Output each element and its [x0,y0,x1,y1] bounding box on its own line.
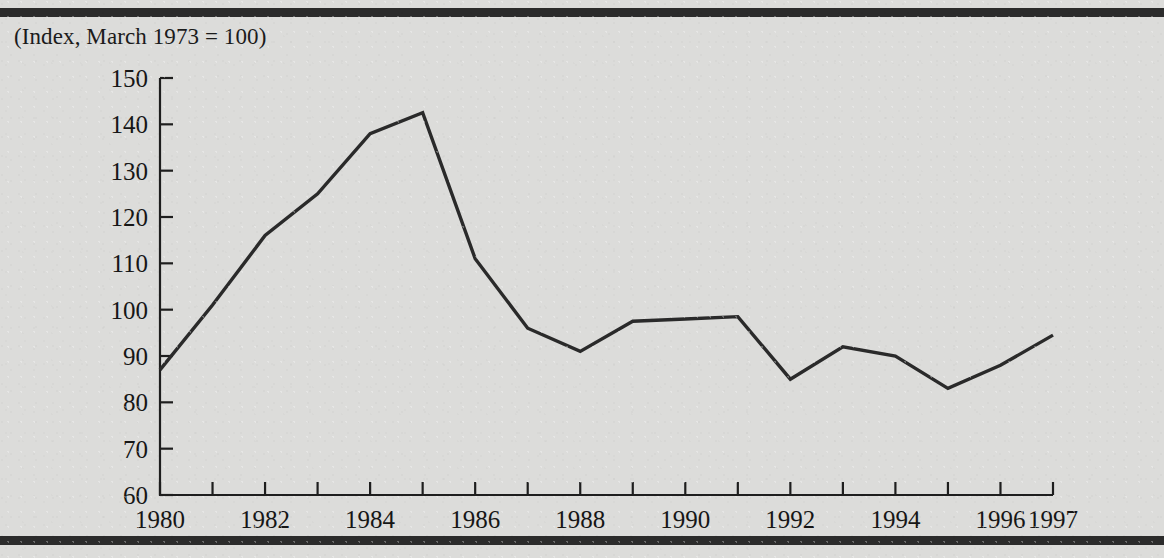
y-axis-label-group: 60708090100110120130140150 [111,65,149,509]
y-axis-tick-label: 140 [111,111,149,138]
x-axis-label-group: 1980198219841986198819901992199419961997 [135,506,1078,533]
y-axis-tick-label: 120 [111,204,149,231]
line-chart-plot: 60708090100110120130140150 1980198219841… [0,0,1164,558]
chart-title: (Index, March 1973 = 100) [14,24,266,50]
x-axis-tick-label: 1982 [240,506,290,533]
x-axis-tick-label: 1994 [870,506,921,533]
top-rule-divider [0,8,1164,17]
x-axis-tick-label: 1988 [555,506,605,533]
axis-frame [160,78,1053,495]
x-axis-tick-label: 1986 [450,506,500,533]
x-axis-tick-label: 1997 [1028,506,1078,533]
y-axis-tick-group [160,78,173,495]
y-axis-tick-label: 80 [123,389,148,416]
x-axis-tick-label: 1980 [135,506,185,533]
x-axis-tick-label: 1996 [975,506,1025,533]
y-axis-tick-label: 130 [111,158,149,185]
y-axis-tick-label: 60 [123,482,148,509]
y-axis-tick-label: 150 [111,65,149,92]
x-axis-tick-label: 1992 [765,506,815,533]
chart-page: (Index, March 1973 = 100) 60708090100110… [0,0,1164,558]
y-axis-tick-label: 70 [123,436,148,463]
x-axis-tick-label: 1984 [345,506,396,533]
x-axis-tick-group [160,482,1053,495]
x-axis-tick-label: 1990 [660,506,710,533]
data-series-line [160,113,1053,389]
y-axis-tick-label: 110 [111,250,148,277]
y-axis-tick-label: 90 [123,343,148,370]
y-axis-tick-label: 100 [111,297,149,324]
bottom-rule-divider [0,536,1164,545]
